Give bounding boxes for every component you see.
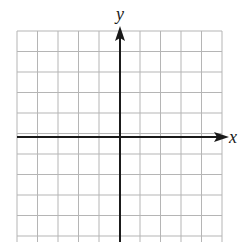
- coordinate-grid: y x: [0, 0, 239, 242]
- y-axis-label: y: [114, 4, 124, 24]
- x-axis-label: x: [228, 127, 237, 147]
